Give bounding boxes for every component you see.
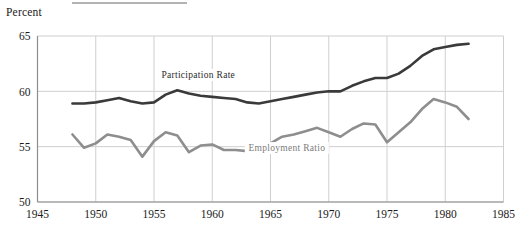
x-tick-label: 1955 — [143, 208, 166, 220]
x-tick-label: 1945 — [26, 208, 49, 220]
y-tick-label: 55 — [19, 141, 31, 153]
x-tick-label: 1950 — [84, 208, 107, 220]
line-chart: 50556065 1945195019551960196519701975198… — [0, 0, 525, 232]
x-tick-label: 1975 — [376, 208, 399, 220]
x-tick-label: 1970 — [317, 208, 340, 220]
series-label: Employment Ratio — [248, 143, 325, 153]
gridlines-group — [38, 36, 504, 202]
y-tick-label: 65 — [19, 30, 31, 42]
x-tick-label: 1965 — [259, 208, 282, 220]
y-tick-label: 50 — [19, 196, 31, 208]
series-label: Participation Rate — [161, 70, 235, 80]
x-tick-label: 1980 — [434, 208, 457, 220]
y-tick-label: 60 — [19, 86, 31, 98]
y-tick-labels-group: 50556065 — [19, 30, 31, 208]
x-tick-labels-group: 194519501955196019651970197519801985 — [26, 208, 515, 220]
figure-panel: Percent 50556065 19451950195519601965197… — [0, 0, 525, 232]
x-tick-label: 1960 — [201, 208, 224, 220]
x-tick-label: 1985 — [492, 208, 515, 220]
